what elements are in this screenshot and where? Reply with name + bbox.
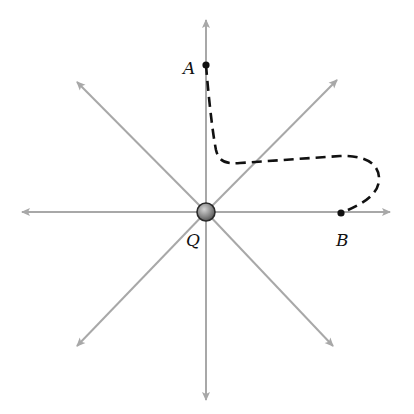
field-diagram <box>0 0 414 414</box>
label-b: B <box>336 232 349 249</box>
label-q: Q <box>186 232 200 249</box>
field-line-down-right-arrow-icon <box>206 212 333 346</box>
label-a: A <box>183 60 195 77</box>
field-line-up-right-arrow-icon <box>206 80 337 212</box>
point-b-dot <box>337 209 344 216</box>
point-a-dot <box>202 61 209 68</box>
point-charge-q <box>197 203 215 221</box>
field-line-up-left-arrow-icon <box>77 82 206 212</box>
dashed-path-a-to-b <box>206 65 379 213</box>
